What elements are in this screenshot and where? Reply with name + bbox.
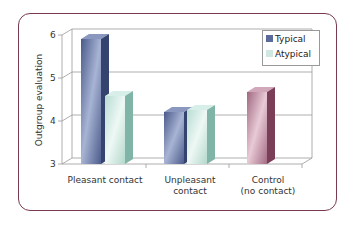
x-label-pleasant: Pleasant contact <box>68 175 143 185</box>
bar-pleasant-atypical <box>105 91 133 164</box>
x-label-unpleasant-1: Unpleasant <box>165 175 216 185</box>
legend-label-typical: Typical <box>275 34 306 44</box>
y-tick-4: 4 <box>50 116 56 126</box>
legend-item-typical: Typical <box>263 31 319 46</box>
x-label-control-1: Control <box>252 175 285 185</box>
x-label-unpleasant-2: contact <box>173 186 207 196</box>
x-label-control-2: (no contact) <box>241 186 296 196</box>
y-tick-5: 5 <box>50 73 56 83</box>
bar-pleasant-typical <box>81 34 109 164</box>
legend-label-atypical: Atypical <box>275 49 311 59</box>
bar-control <box>247 87 275 164</box>
legend-swatch-atypical-icon <box>266 50 273 57</box>
chart-legend: Typical Atypical <box>262 30 320 66</box>
bar-unpleasant-atypical <box>187 105 215 164</box>
y-axis-label: Outgroup evaluation <box>34 54 44 147</box>
y-tick-6: 6 <box>50 30 56 40</box>
legend-item-atypical: Atypical <box>263 46 319 61</box>
y-tick-3: 3 <box>50 159 56 169</box>
legend-swatch-typical-icon <box>266 35 273 42</box>
